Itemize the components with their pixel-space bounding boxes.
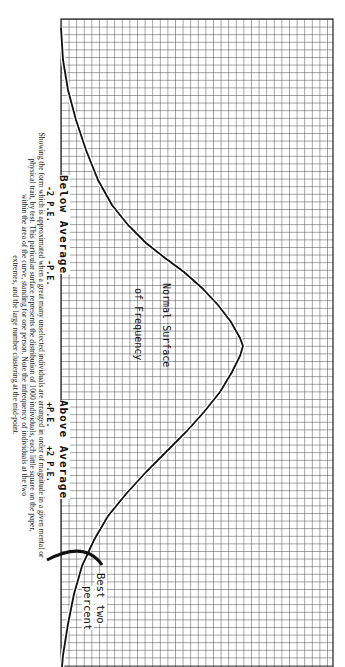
caption-line: within the area of the curve, standing f… bbox=[19, 20, 28, 667]
grid-paper bbox=[61, 19, 333, 667]
tick-plus-pe: +P.E. bbox=[45, 402, 55, 428]
caption: Showing the form which is approximated w… bbox=[11, 20, 45, 667]
caption-line: Showing the form which is approximated w… bbox=[36, 20, 45, 667]
tick-minus-pe: -P.E. bbox=[45, 260, 55, 286]
tick-plus-2pe: +2 P.E. bbox=[45, 446, 55, 482]
caption-line: physical trait, by test. This particular… bbox=[28, 20, 37, 667]
normal-curve-chart bbox=[0, 0, 345, 667]
best-two-percent-label-line2: percent bbox=[82, 586, 94, 630]
above-average-label: Above Average bbox=[57, 400, 70, 499]
best-two-percent-label-line1: Best two bbox=[95, 573, 107, 624]
caption-line: extremes, and the large number clusterin… bbox=[11, 20, 20, 667]
chart-title-line2: of Frequency bbox=[133, 288, 144, 360]
tick-minus-2pe: -2 P.E. bbox=[45, 186, 55, 222]
chart-title-line1: Normal Surface bbox=[161, 283, 172, 367]
below-average-label: Below Average bbox=[57, 175, 70, 274]
